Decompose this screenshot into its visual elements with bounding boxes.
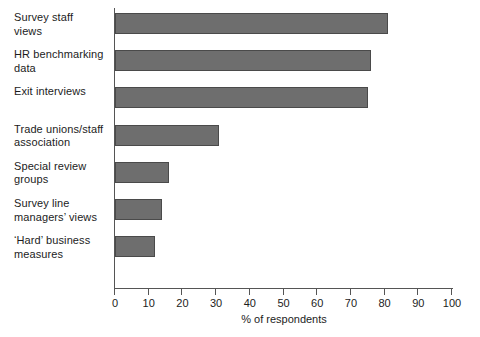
x-axis-tick-label: 80	[370, 297, 400, 309]
category-label: HR benchmarking data	[14, 48, 118, 75]
x-axis-tick-label: 50	[269, 297, 299, 309]
category-label: Survey line managers’ views	[14, 197, 118, 224]
category-label-column: Survey staff viewsHR benchmarking dataEx…	[14, 0, 112, 300]
x-axis-tick	[451, 289, 452, 295]
x-axis-tick	[350, 289, 351, 295]
x-axis-tick	[215, 289, 216, 295]
bar	[115, 199, 162, 220]
bar	[115, 125, 219, 146]
x-axis-tick-label: 20	[167, 297, 197, 309]
x-axis-tick	[384, 289, 385, 295]
plot-area	[115, 0, 453, 288]
bar-chart-figure: Survey staff viewsHR benchmarking dataEx…	[0, 0, 480, 337]
x-axis-title-text: % of respondents	[241, 313, 327, 325]
x-axis-tick-label: 60	[302, 297, 332, 309]
category-label: Trade unions/staff association	[14, 123, 118, 150]
bar	[115, 50, 371, 71]
x-axis-tick	[316, 289, 317, 295]
x-axis-tick	[148, 289, 149, 295]
x-axis-tick-label: 0	[100, 297, 130, 309]
figure-caption-sliver	[0, 332, 480, 337]
x-axis-tick	[283, 289, 284, 295]
category-label: Survey staff views	[14, 11, 118, 38]
x-axis-tick	[249, 289, 250, 295]
bar	[115, 236, 155, 257]
x-axis-tick-label: 30	[201, 297, 231, 309]
x-axis-title: % of respondents	[0, 313, 480, 325]
bar	[115, 162, 169, 183]
y-axis-line	[114, 8, 115, 289]
category-label: ‘Hard’ business measures	[14, 234, 118, 261]
x-axis-tick-label: 70	[336, 297, 366, 309]
category-label: Special review groups	[14, 160, 118, 187]
x-axis-tick	[417, 289, 418, 295]
category-label: Exit interviews	[14, 85, 118, 99]
x-axis-tick-label: 90	[403, 297, 433, 309]
x-axis-tick-label: 40	[235, 297, 265, 309]
x-axis-tick-label: 100	[437, 297, 467, 309]
x-axis-tick-label: 10	[134, 297, 164, 309]
bar	[115, 13, 388, 34]
x-axis-line	[114, 288, 453, 289]
x-axis-tick	[114, 289, 115, 295]
x-axis-tick	[181, 289, 182, 295]
bar	[115, 87, 368, 108]
